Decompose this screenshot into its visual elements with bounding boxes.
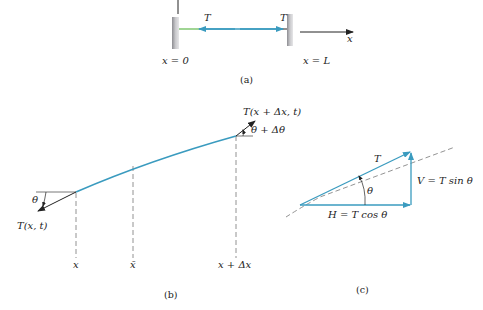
left-angle-arc [43, 192, 46, 206]
right-tension-label: T(x + Δx, t) [243, 106, 301, 117]
angle-arc-c [359, 176, 365, 205]
horizontal-component-label: H = T cos θ [327, 209, 387, 220]
left-tension-arrow [38, 192, 76, 211]
x-label: x [73, 259, 79, 270]
panel-b: θ T(x, t) T(x + Δx, t) θ + Δθ x x̄ x + Δ… [17, 106, 301, 300]
left-wall [172, 17, 179, 49]
right-end-label: x = L [303, 55, 330, 66]
x-plus-dx-label: x + Δx [218, 259, 252, 270]
angle-label-c: θ [367, 185, 373, 196]
x-axis-label: x [347, 33, 353, 44]
panel-a: T T x x = 0 x = L (a) [162, 0, 353, 85]
string-tension-figure: T T x x = 0 x = L (a) θ T(x, t) T(x + Δx… [0, 0, 483, 310]
right-angle-label: θ + Δθ [251, 124, 285, 135]
caption-c: (c) [356, 284, 369, 295]
tension-label-left: T [204, 12, 212, 23]
string-segment [76, 136, 236, 192]
left-angle-label: θ [32, 194, 38, 205]
xbar-label: x̄ [130, 259, 136, 270]
left-tension-label: T(x, t) [17, 220, 48, 231]
caption-a: (a) [240, 74, 253, 85]
tension-label-right: T [280, 12, 288, 23]
left-end-label: x = 0 [162, 55, 189, 66]
vertical-component-label: V = T sin θ [417, 175, 473, 186]
tension-vector [300, 152, 410, 205]
tension-label-c: T [374, 153, 382, 164]
caption-b: (b) [164, 289, 178, 300]
right-angle-arc [243, 130, 244, 136]
panel-c: T θ V = T sin θ H = T cos θ (c) [286, 147, 473, 295]
right-wall [287, 14, 293, 46]
